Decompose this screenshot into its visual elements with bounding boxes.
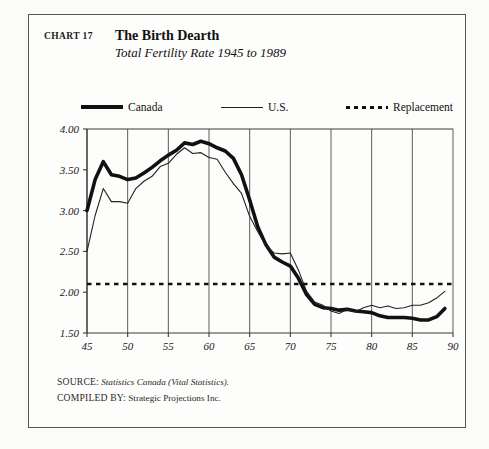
svg-text:80: 80 <box>366 340 378 352</box>
svg-text:85: 85 <box>407 340 419 352</box>
legend-label-replacement: Replacement <box>393 101 453 113</box>
x-axis-tick-labels: 45505560657075808590 <box>82 340 460 352</box>
plot-area: 1.502.002.503.003.504.00 455055606570758… <box>29 115 467 365</box>
svg-text:2.50: 2.50 <box>60 245 80 257</box>
svg-text:60: 60 <box>204 340 216 352</box>
source-note-prefix: SOURCE: <box>57 376 99 387</box>
gridlines <box>87 129 453 333</box>
page-title: The Birth Dearth <box>115 27 286 44</box>
compiled-note: COMPILED BY: Strategic Projections Inc. <box>57 392 221 403</box>
svg-text:1.50: 1.50 <box>60 327 80 339</box>
page-subtitle: Total Fertility Rate 1945 to 1989 <box>115 44 286 61</box>
source-note-text: Statistics Canada (Vital Statistics). <box>101 377 229 387</box>
svg-text:45: 45 <box>82 340 94 352</box>
legend-item-replacement: Replacement <box>346 99 453 115</box>
legend-label-us: U.S. <box>268 101 288 113</box>
legend-swatch-thick-icon <box>81 105 123 109</box>
x-axis-ticks <box>87 333 453 337</box>
svg-text:4.00: 4.00 <box>60 123 80 135</box>
svg-text:3.50: 3.50 <box>59 164 80 176</box>
chart-legend: Canada U.S. Replacement <box>81 99 451 115</box>
chart-frame: CHART 17 The Birth Dearth Total Fertilit… <box>28 14 466 428</box>
data-series <box>87 141 453 320</box>
chart-number-label: CHART 17 <box>44 31 93 41</box>
legend-item-us: U.S. <box>221 99 288 115</box>
svg-text:65: 65 <box>244 340 256 352</box>
svg-text:50: 50 <box>122 340 133 352</box>
legend-swatch-dotted-icon <box>346 106 388 109</box>
svg-text:90: 90 <box>448 340 460 352</box>
legend-label-canada: Canada <box>128 101 162 113</box>
source-note: SOURCE: Statistics Canada (Vital Statist… <box>57 376 229 387</box>
axis-lines <box>87 129 453 333</box>
compiled-note-text: Strategic Projections Inc. <box>128 393 221 403</box>
y-axis-tick-labels: 1.502.002.503.003.504.00 <box>59 123 80 339</box>
compiled-note-prefix: COMPILED BY: <box>57 392 126 403</box>
title-block: The Birth Dearth Total Fertility Rate 19… <box>115 27 286 61</box>
svg-text:75: 75 <box>326 340 338 352</box>
svg-text:55: 55 <box>163 340 175 352</box>
chart-page: CHART 17 The Birth Dearth Total Fertilit… <box>0 0 489 449</box>
legend-item-canada: Canada <box>81 99 162 115</box>
svg-text:3.00: 3.00 <box>59 205 80 217</box>
legend-swatch-thin-icon <box>221 107 263 108</box>
chart-svg: 1.502.002.503.003.504.00 455055606570758… <box>29 115 467 365</box>
svg-text:70: 70 <box>285 340 297 352</box>
svg-text:2.00: 2.00 <box>60 286 80 298</box>
